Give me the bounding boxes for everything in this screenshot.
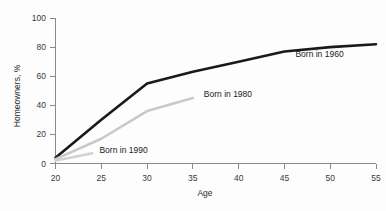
series-label-born-in-1960: Born in 1960 [295, 49, 343, 59]
y-tick-label-100: 100 [32, 13, 46, 23]
x-tick-label-55: 55 [371, 173, 381, 183]
y-axis-group: 020406080100 Homeowners, % [12, 13, 56, 169]
x-tick-label-40: 40 [234, 173, 244, 183]
y-tick-label-60: 60 [37, 71, 47, 81]
x-tick-label-50: 50 [325, 173, 335, 183]
series-line-born-in-1960 [56, 44, 377, 157]
x-tick-label-20: 20 [51, 173, 61, 183]
x-tick-label-35: 35 [188, 173, 198, 183]
series-label-born-in-1980: Born in 1980 [204, 89, 252, 99]
x-tick-marks [56, 164, 377, 170]
y-tick-label-20: 20 [37, 129, 47, 139]
y-axis-title: Homeowners, % [12, 64, 22, 127]
y-tick-marks [50, 18, 56, 164]
y-tick-label-40: 40 [37, 100, 47, 110]
x-tick-labels: 2025303540455055 [51, 173, 381, 183]
x-tick-label-25: 25 [97, 173, 107, 183]
y-tick-label-80: 80 [37, 42, 47, 52]
series-lines [56, 44, 377, 160]
y-tick-labels: 020406080100 [32, 13, 46, 169]
chart-canvas: 020406080100 Homeowners, % 2025303540455… [0, 0, 386, 211]
x-axis-title: Age [197, 188, 212, 198]
series-label-born-in-1990: Born in 1990 [99, 145, 147, 155]
x-axis-group: 2025303540455055 Age [51, 164, 381, 199]
x-tick-label-45: 45 [280, 173, 290, 183]
homeownership-line-chart: 020406080100 Homeowners, % 2025303540455… [0, 0, 386, 211]
y-tick-label-0: 0 [41, 159, 46, 169]
x-tick-label-30: 30 [142, 173, 152, 183]
